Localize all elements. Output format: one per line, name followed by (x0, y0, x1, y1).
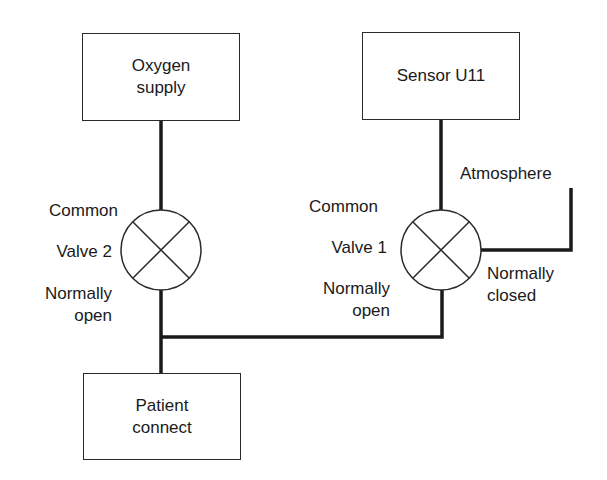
oxygen-supply-box: Oxygen supply (82, 33, 240, 121)
valve-1-normally-open-label: Normally open (300, 278, 390, 322)
valve-2-normally-open-label: Normally open (10, 283, 112, 327)
patient-connect-box: Patient connect (83, 373, 241, 460)
atmosphere-label: Atmosphere (460, 163, 552, 185)
pipe-valve1-atmosphere (481, 188, 571, 250)
sensor-box: Sensor U11 (362, 32, 520, 120)
valve-2-name-label: Valve 2 (20, 241, 112, 263)
valve-2-common-label: Common (20, 200, 118, 222)
oxygen-supply-label: Oxygen supply (132, 55, 191, 99)
valve-2-symbol (121, 210, 201, 290)
valve-1-symbol (401, 210, 481, 290)
sensor-label: Sensor U11 (397, 65, 486, 87)
valve-1-name-label: Valve 1 (300, 237, 387, 259)
valve-1-common-label: Common (309, 196, 378, 218)
patient-connect-label: Patient connect (132, 395, 192, 439)
valve-1-normally-closed-label: Normally closed (487, 263, 554, 307)
